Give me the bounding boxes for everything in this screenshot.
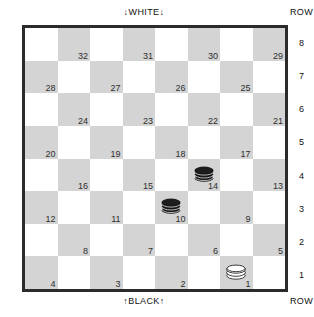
board-square-22[interactable]: 22 (188, 93, 221, 126)
row-number-2: 2 (289, 226, 314, 259)
board-square-empty (253, 191, 286, 224)
board-square-18[interactable]: 18 (155, 126, 188, 159)
square-number-label: 32 (78, 51, 88, 61)
board-square-empty (155, 224, 188, 257)
square-number-label: 17 (240, 149, 250, 159)
square-number-label: 11 (111, 214, 120, 224)
square-number-label: 28 (45, 83, 55, 93)
square-number-label: 3 (115, 279, 120, 289)
board-square-3[interactable]: 3 (90, 256, 123, 289)
square-number-label: 31 (143, 51, 153, 61)
board-square-28[interactable]: 28 (25, 61, 58, 94)
board-square-10[interactable]: 10 (155, 191, 188, 224)
square-number-label: 29 (273, 51, 283, 61)
board-square-empty (90, 159, 123, 192)
square-number-label: 19 (110, 149, 120, 159)
square-number-label: 21 (273, 116, 283, 126)
board-square-empty (123, 256, 156, 289)
board-square-empty (188, 191, 221, 224)
square-number-label: 27 (110, 83, 120, 93)
square-number-label: 16 (78, 181, 88, 191)
square-number-label: 26 (175, 83, 185, 93)
square-number-label: 20 (45, 149, 55, 159)
board-square-17[interactable]: 17 (220, 126, 253, 159)
square-number-label: 25 (240, 83, 250, 93)
row-number-8: 8 (289, 26, 314, 59)
row-number-column: 87654321 (289, 26, 314, 292)
board-square-20[interactable]: 20 (25, 126, 58, 159)
board-square-23[interactable]: 23 (123, 93, 156, 126)
board-square-empty (220, 28, 253, 61)
square-number-label: 12 (45, 214, 55, 224)
board-square-30[interactable]: 30 (188, 28, 221, 61)
board-square-empty (220, 93, 253, 126)
board-square-32[interactable]: 32 (58, 28, 91, 61)
board-square-2[interactable]: 2 (155, 256, 188, 289)
board-square-31[interactable]: 31 (123, 28, 156, 61)
board-square-6[interactable]: 6 (188, 224, 221, 257)
black-king-piece[interactable] (192, 162, 216, 184)
board-square-24[interactable]: 24 (58, 93, 91, 126)
square-number-label: 6 (213, 246, 218, 256)
square-number-label: 13 (273, 181, 283, 191)
board-square-16[interactable]: 16 (58, 159, 91, 192)
row-number-6: 6 (289, 93, 314, 126)
board-square-empty (220, 159, 253, 192)
board-square-empty (253, 256, 286, 289)
row-caption-top: ROW (289, 7, 314, 17)
square-number-label: 22 (208, 116, 218, 126)
black-side-label: ↑BLACK↑ (0, 296, 288, 306)
row-number-5: 5 (289, 126, 314, 159)
board-square-empty (90, 224, 123, 257)
board-square-empty (58, 191, 91, 224)
board-square-empty (25, 159, 58, 192)
square-number-label: 7 (148, 246, 153, 256)
square-number-label: 5 (278, 246, 283, 256)
board-square-5[interactable]: 5 (253, 224, 286, 257)
board-square-empty (90, 93, 123, 126)
board-square-empty (188, 126, 221, 159)
board-square-empty (25, 224, 58, 257)
black-king-piece[interactable] (159, 194, 183, 216)
board-square-empty (58, 61, 91, 94)
board-square-9[interactable]: 9 (220, 191, 253, 224)
white-side-label: ↓WHITE↓ (0, 7, 288, 17)
board-square-11[interactable]: 11 (90, 191, 123, 224)
square-number-label: 15 (143, 181, 153, 191)
board-square-26[interactable]: 26 (155, 61, 188, 94)
square-number-label: 4 (50, 279, 55, 289)
board-square-29[interactable]: 29 (253, 28, 286, 61)
board-square-14[interactable]: 14 (188, 159, 221, 192)
row-number-7: 7 (289, 59, 314, 92)
board-square-12[interactable]: 12 (25, 191, 58, 224)
square-number-label: 9 (245, 214, 250, 224)
board-square-13[interactable]: 13 (253, 159, 286, 192)
board-square-empty (188, 256, 221, 289)
board-square-21[interactable]: 21 (253, 93, 286, 126)
board-square-25[interactable]: 25 (220, 61, 253, 94)
square-number-label: 18 (175, 149, 185, 159)
square-number-label: 23 (143, 116, 153, 126)
board-square-15[interactable]: 15 (123, 159, 156, 192)
square-number-label: 2 (180, 279, 185, 289)
board-square-empty (58, 126, 91, 159)
checkers-board[interactable]: 3231302928272625242322212019181716151413… (22, 25, 288, 292)
board-square-19[interactable]: 19 (90, 126, 123, 159)
board-square-empty (253, 126, 286, 159)
board-square-empty (155, 159, 188, 192)
row-number-1: 1 (289, 259, 314, 292)
board-square-empty (123, 126, 156, 159)
board-square-1[interactable]: 1 (220, 256, 253, 289)
board-square-empty (58, 256, 91, 289)
row-number-3: 3 (289, 192, 314, 225)
board-square-empty (155, 93, 188, 126)
square-number-label: 24 (78, 116, 88, 126)
white-king-piece[interactable] (224, 260, 248, 282)
board-square-empty (123, 61, 156, 94)
board-square-27[interactable]: 27 (90, 61, 123, 94)
board-square-empty (123, 191, 156, 224)
board-square-8[interactable]: 8 (58, 224, 91, 257)
board-square-empty (25, 28, 58, 61)
board-square-4[interactable]: 4 (25, 256, 58, 289)
board-square-7[interactable]: 7 (123, 224, 156, 257)
